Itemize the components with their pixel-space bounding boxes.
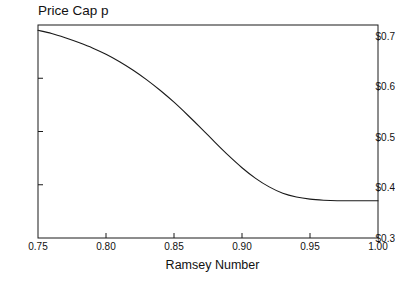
plot-area bbox=[0, 0, 395, 285]
x-tick-marks bbox=[106, 233, 310, 238]
y-tick-marks bbox=[38, 78, 43, 185]
series-line-price-cap bbox=[38, 30, 378, 200]
plot-frame bbox=[38, 25, 378, 238]
chart-figure: Price Cap p $0.7 $0.6 $0.5 $0.4 $0.3 0.7… bbox=[0, 0, 395, 285]
